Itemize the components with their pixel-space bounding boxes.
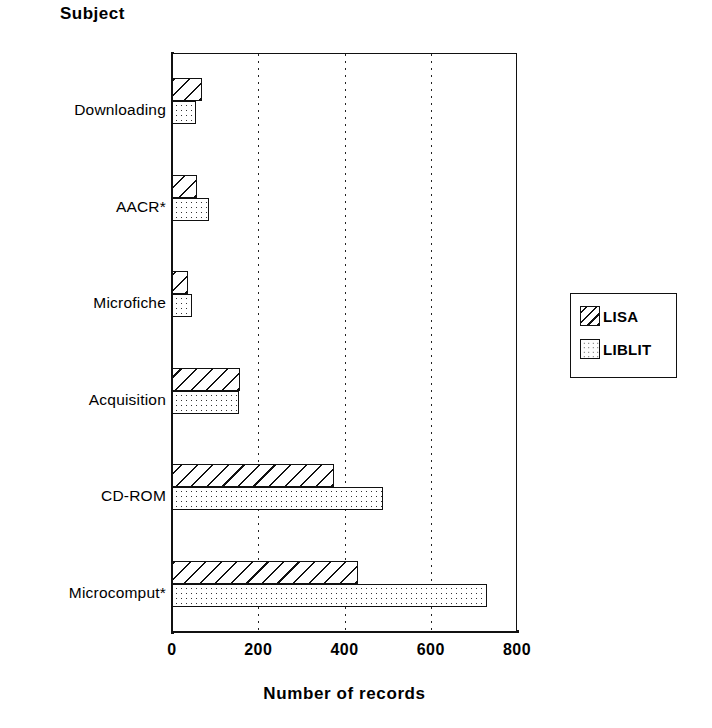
category-label-4: CD-ROM xyxy=(0,487,166,505)
bar-lisa-5 xyxy=(172,561,358,584)
legend-entry-lisa: LISA xyxy=(580,306,638,326)
bar-chart: Subject DownloadingAACR*MicroficheAcquis… xyxy=(0,0,712,728)
bar-lisa-3 xyxy=(172,368,240,391)
bar-liblit-2 xyxy=(172,294,192,317)
legend-label-liblit: LIBLIT xyxy=(603,342,651,357)
dotted-fill-swatch-icon xyxy=(580,339,600,359)
diagonal-hatch-swatch-icon xyxy=(580,306,600,326)
bar-lisa-4 xyxy=(172,464,334,487)
category-label-0: Downloading xyxy=(0,101,166,119)
chart-title: Subject xyxy=(60,4,125,24)
x-tick-600: 600 xyxy=(417,641,445,659)
x-tick-400: 400 xyxy=(330,641,358,659)
category-label-2: Microfiche xyxy=(0,294,166,312)
x-tick-800: 800 xyxy=(503,641,531,659)
category-label-5: Microcomput* xyxy=(0,584,166,602)
legend-label-lisa: LISA xyxy=(603,309,638,324)
gridline-200 xyxy=(258,54,259,631)
legend: LISA LIBLIT xyxy=(570,293,677,378)
bar-lisa-1 xyxy=(172,175,197,198)
bar-lisa-0 xyxy=(172,78,202,101)
bar-liblit-5 xyxy=(172,584,487,607)
gridline-600 xyxy=(431,54,432,631)
bar-liblit-1 xyxy=(172,198,209,221)
x-tick-0: 0 xyxy=(167,641,176,659)
x-tick-200: 200 xyxy=(244,641,272,659)
bar-liblit-3 xyxy=(172,391,239,414)
bar-liblit-4 xyxy=(172,487,383,510)
bar-liblit-0 xyxy=(172,101,196,124)
x-axis-title: Number of records xyxy=(172,684,517,704)
legend-entry-liblit: LIBLIT xyxy=(580,339,651,359)
category-label-3: Acquisition xyxy=(0,391,166,409)
bar-lisa-2 xyxy=(172,271,188,294)
gridline-400 xyxy=(345,54,346,631)
category-label-1: AACR* xyxy=(0,198,166,216)
